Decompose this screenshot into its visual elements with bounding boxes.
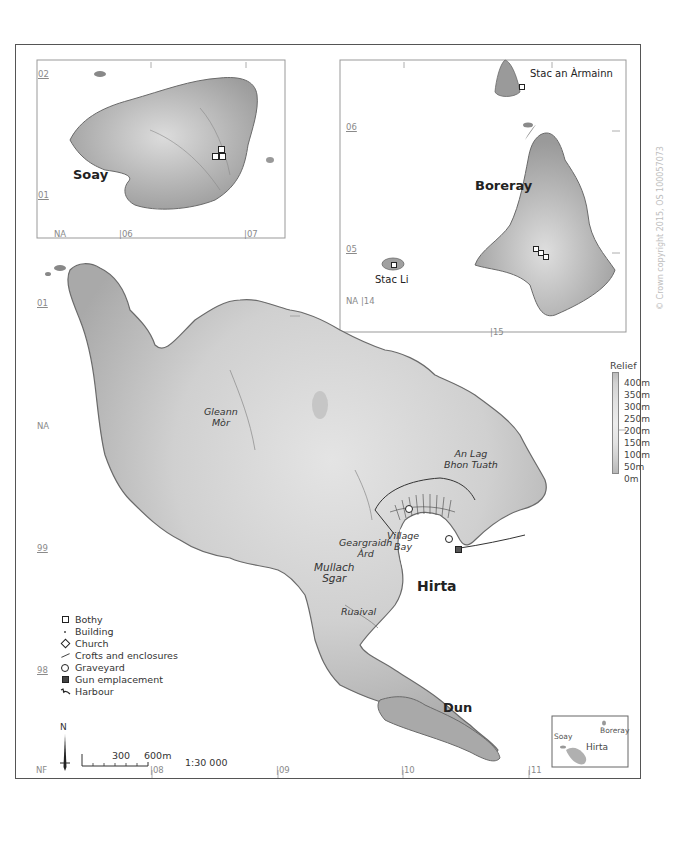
- place-stac-an-armainn: Stac an Àrmainn: [530, 68, 613, 79]
- relief-level-100: 100m: [624, 450, 650, 460]
- gun-emplacement-square-icon: [59, 676, 71, 683]
- bothy-icon: [219, 153, 226, 160]
- scale-label-600m: 600m: [144, 750, 171, 761]
- place-village-bay: VillageBay: [387, 530, 419, 552]
- place-geargraidh-ard: GeargraidhÀrd: [339, 537, 392, 559]
- relief-level-400: 400m: [624, 378, 650, 388]
- bothy-icon: [391, 262, 397, 268]
- place-soay: Soay: [73, 167, 108, 182]
- grid-label-10: |10: [401, 765, 415, 775]
- symbol-legend: Bothy Building Church Crofts and enclosu…: [59, 614, 239, 704]
- north-arrow-icon: [58, 733, 72, 773]
- place-gleann-mor: GleannMòr: [204, 406, 238, 428]
- harbour-icon: [59, 688, 71, 696]
- grid-label-07: |07: [244, 229, 258, 239]
- place-dun: Dun: [443, 700, 472, 715]
- grid-label-na-boreray: NA |14: [346, 296, 375, 306]
- legend-item-harbour: Harbour: [59, 686, 114, 697]
- grid-label-02: 02: [38, 69, 49, 79]
- legend-item-crofts: Crofts and enclosures: [59, 650, 178, 661]
- relief-level-150: 150m: [624, 438, 650, 448]
- bothy-icon: [218, 146, 225, 153]
- relief-level-0: 0m: [624, 474, 639, 484]
- relief-level-250: 250m: [624, 414, 650, 424]
- place-mullach-sgar: MullachSgar: [314, 562, 354, 584]
- grid-label-na: NA: [54, 229, 66, 239]
- relief-level-350: 350m: [624, 390, 650, 400]
- gun-emplacement-icon: [455, 546, 462, 553]
- bothy-icon: [543, 254, 549, 260]
- place-an-lag-bhon-tuath: An LagBhon Tuath: [444, 448, 498, 470]
- crofts-line-icon: [59, 655, 71, 656]
- place-stac-li: Stac Li: [375, 274, 408, 285]
- relief-legend-title: Relief: [610, 360, 637, 371]
- bothy-icon: [212, 153, 219, 160]
- bothy-square-icon: [59, 616, 71, 623]
- grid-label-06: |06: [119, 229, 133, 239]
- north-arrow-label: N: [60, 722, 67, 732]
- copyright-notice: © Crown copyright 2015, OS 100057073: [656, 146, 665, 310]
- place-hirta: Hirta: [417, 578, 457, 594]
- grid-label-nf: NF: [36, 765, 47, 775]
- grid-label-na-main: NA: [37, 421, 49, 431]
- legend-item-graveyard: Graveyard: [59, 662, 125, 673]
- locator-hirta: Hirta: [586, 742, 608, 752]
- grid-label-98: 98: [37, 665, 48, 675]
- relief-level-300: 300m: [624, 402, 650, 412]
- grid-label-05-north: 05: [346, 244, 357, 254]
- place-boreray: Boreray: [475, 178, 532, 193]
- relief-level-200: 200m: [624, 426, 650, 436]
- graveyard-circle-icon: [59, 664, 71, 672]
- grid-label-11: |11: [528, 765, 542, 775]
- scale-ratio: 1:30 000: [185, 757, 228, 768]
- church-diamond-icon: [59, 640, 71, 647]
- legend-item-bothy: Bothy: [59, 614, 103, 625]
- graveyard-icon: [445, 535, 453, 543]
- building-dot-icon: [59, 631, 71, 633]
- graveyard-icon: [405, 505, 413, 513]
- relief-color-bar: [612, 372, 619, 474]
- grid-label-01: 01: [38, 190, 49, 200]
- grid-label-01-main: 01: [37, 298, 48, 308]
- legend-item-church: Church: [59, 638, 109, 649]
- grid-label-06-north: 06: [346, 122, 357, 132]
- map-land-layer: [0, 0, 683, 844]
- grid-label-99: 99: [37, 543, 48, 553]
- legend-item-building: Building: [59, 626, 114, 637]
- grid-label-15: |15: [490, 327, 504, 337]
- legend-item-gun-emplacement: Gun emplacement: [59, 674, 163, 685]
- grid-label-09: |09: [276, 765, 290, 775]
- place-ruaival: Ruaival: [341, 606, 376, 617]
- relief-level-50: 50m: [624, 462, 644, 472]
- scale-label-300: 300: [112, 750, 130, 761]
- bothy-icon: [519, 84, 525, 90]
- locator-boreray: Boreray: [600, 726, 629, 735]
- locator-soay: Soay: [554, 732, 572, 741]
